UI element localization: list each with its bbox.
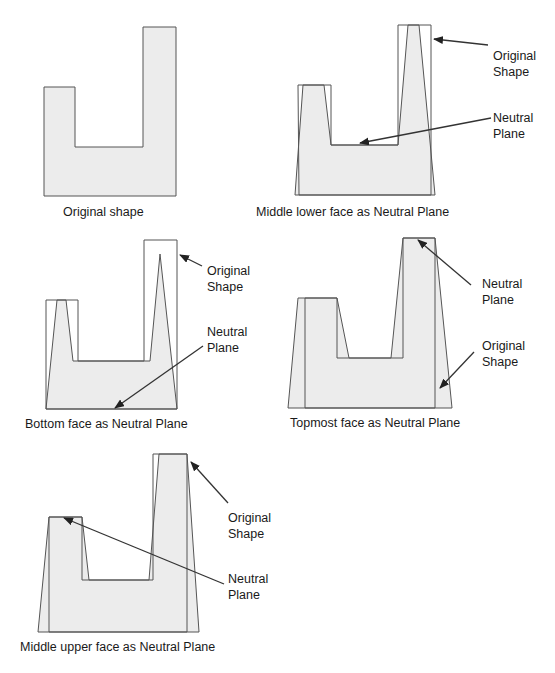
- label-neutral-plane-l2: Plane: [482, 293, 514, 307]
- deformed-shape: [295, 25, 435, 195]
- panel-middle-lower: Original Shape Neutral Plane Middle lowe…: [256, 25, 536, 219]
- label-original-shape-l2: Shape: [228, 527, 264, 541]
- caption-original: Original shape: [63, 205, 144, 219]
- label-original-shape-l1: Original: [207, 264, 250, 278]
- label-neutral-plane-l2: Plane: [207, 341, 239, 355]
- caption-middle-lower: Middle lower face as Neutral Plane: [256, 205, 449, 219]
- label-original-shape-l1: Original: [493, 49, 536, 63]
- panel-topmost: Neutral Plane Original Shape Topmost fac…: [288, 238, 525, 430]
- label-neutral-plane-l1: Neutral: [207, 325, 247, 339]
- arrow-original-shape: [180, 255, 202, 266]
- arrow-original-shape: [434, 39, 488, 45]
- label-neutral-plane-l1: Neutral: [482, 277, 522, 291]
- panel-middle-upper: Original Shape Neutral Plane Middle uppe…: [20, 454, 271, 654]
- diagram-canvas: Original shape Original Shape Neutral Pl…: [0, 0, 555, 673]
- label-original-shape-l1: Original: [228, 511, 271, 525]
- panel-bottom: Original Shape Neutral Plane Bottom face…: [25, 240, 250, 431]
- label-neutral-plane-l2: Plane: [493, 127, 525, 141]
- label-original-shape-l2: Shape: [493, 65, 529, 79]
- deformed-shape: [46, 254, 177, 409]
- caption-bottom: Bottom face as Neutral Plane: [25, 417, 188, 431]
- caption-topmost: Topmost face as Neutral Plane: [290, 416, 460, 430]
- label-neutral-plane-l1: Neutral: [493, 111, 533, 125]
- original-shape: [44, 27, 176, 196]
- label-original-shape-l1: Original: [482, 339, 525, 353]
- label-neutral-plane-l2: Plane: [228, 588, 260, 602]
- label-neutral-plane-l1: Neutral: [228, 572, 268, 586]
- arrow-original-shape: [191, 462, 228, 503]
- caption-middle-upper: Middle upper face as Neutral Plane: [20, 640, 215, 654]
- label-original-shape-l2: Shape: [482, 355, 518, 369]
- deformed-shape: [38, 454, 199, 632]
- deformed-shape: [288, 238, 452, 408]
- label-original-shape-l2: Shape: [207, 280, 243, 294]
- panel-original-shape: Original shape: [44, 27, 176, 219]
